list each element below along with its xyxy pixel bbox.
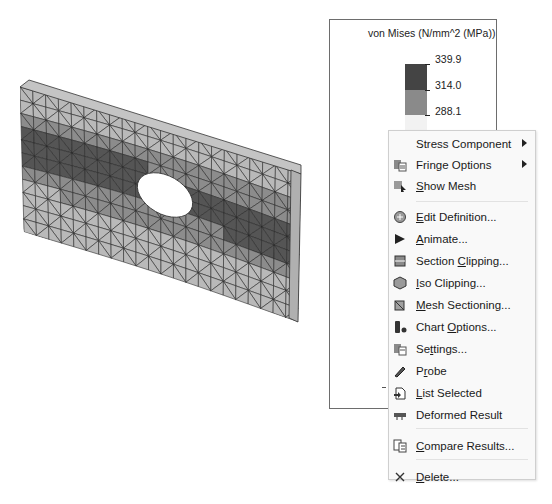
legend-tick [382, 387, 386, 388]
menu-item-list-selected[interactable]: List Selected [389, 382, 535, 404]
section-clipping-icon [393, 254, 407, 268]
menu-item-label: Delete... [416, 471, 459, 483]
menu-item-section-clipping[interactable]: Section Clipping... [389, 250, 535, 272]
legend-title: von Mises (N/mm^2 (MPa)) [368, 27, 495, 39]
legend-tick [425, 64, 430, 65]
menu-item-probe[interactable]: Probe [389, 360, 535, 382]
chart-options-icon [393, 320, 407, 334]
menu-item-label: Settings... [416, 343, 467, 355]
legend-swatch-0 [405, 64, 427, 90]
compare-results-icon [393, 439, 407, 453]
submenu-arrow-icon [522, 139, 527, 147]
animate-icon [393, 232, 407, 246]
menu-item-mesh-sectioning[interactable]: Mesh Sectioning... [389, 294, 535, 316]
list-selected-icon [393, 386, 407, 400]
fringe-options-icon [393, 158, 407, 172]
mesh-sectioning-icon [393, 298, 407, 312]
menu-item-edit-definition[interactable]: Edit Definition... [389, 206, 535, 228]
probe-icon [393, 364, 407, 378]
menu-item-settings[interactable]: Settings... [389, 338, 535, 360]
legend-value-2: 288.1 [435, 105, 461, 117]
context-menu[interactable]: Stress ComponentFringe OptionsShow MeshE… [388, 130, 536, 480]
menu-item-label: List Selected [416, 387, 482, 399]
show-mesh-icon [393, 179, 407, 193]
settings-icon [393, 342, 407, 356]
plate-side-edge [289, 170, 301, 322]
menu-item-compare-results[interactable]: Compare Results... [389, 435, 535, 457]
legend-tick [425, 90, 430, 91]
menu-item-label: Fringe Options [416, 159, 491, 171]
legend-tick [425, 115, 430, 116]
menu-item-animate[interactable]: Animate... [389, 228, 535, 250]
menu-item-label: Deformed Result [416, 409, 502, 421]
menu-item-iso-clipping[interactable]: Iso Clipping... [389, 272, 535, 294]
menu-item-chart-options[interactable]: Chart Options... [389, 316, 535, 338]
edit-definition-icon [393, 210, 407, 224]
menu-item-label: Probe [416, 365, 447, 377]
menu-item-label: Section Clipping... [416, 255, 509, 267]
menu-item-label: Chart Options... [416, 321, 497, 333]
legend-value-0: 339.9 [435, 53, 461, 65]
menu-item-label: Animate... [416, 233, 468, 245]
menu-separator [416, 201, 528, 202]
menu-item-label: Stress Component [416, 138, 511, 150]
empty-icon-slot [393, 137, 407, 151]
menu-separator [416, 428, 528, 429]
menu-item-delete[interactable]: Delete... [389, 466, 535, 488]
menu-item-label: Mesh Sectioning... [416, 299, 511, 311]
menu-separator [416, 459, 528, 460]
fea-mesh-model[interactable] [0, 0, 330, 360]
submenu-arrow-icon [522, 160, 527, 168]
delete-icon [393, 470, 407, 484]
menu-item-show-mesh[interactable]: Show Mesh [389, 175, 535, 197]
iso-clipping-icon [393, 276, 407, 290]
menu-item-label: Iso Clipping... [416, 277, 486, 289]
menu-item-stress-component[interactable]: Stress Component [389, 133, 535, 155]
deformed-result-icon [393, 408, 407, 422]
menu-item-label: Compare Results... [416, 440, 514, 452]
menu-item-deformed-result[interactable]: Deformed Result [389, 404, 535, 426]
menu-item-label: Show Mesh [416, 180, 476, 192]
legend-swatch-1 [405, 90, 427, 115]
menu-item-fringe-options[interactable]: Fringe Options [389, 154, 535, 176]
menu-item-label: Edit Definition... [416, 211, 497, 223]
legend-value-1: 314.0 [435, 79, 461, 91]
